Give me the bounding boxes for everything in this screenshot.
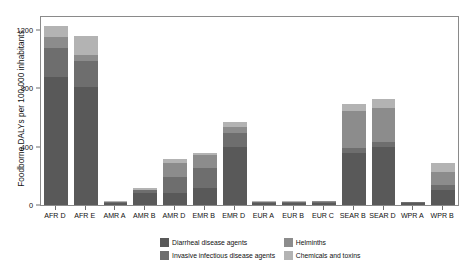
x-tick-mark (383, 206, 384, 210)
x-tick-label: EUR C (312, 212, 334, 220)
x-tick-mark (55, 206, 56, 210)
bar-segment (193, 155, 217, 167)
bar-eur-a[interactable] (252, 201, 276, 205)
x-tick-label: EMR B (193, 212, 215, 220)
bar-amr-b[interactable] (133, 188, 157, 205)
bar-sear-d[interactable] (372, 99, 396, 205)
x-tick-mark (85, 206, 86, 210)
legend-item[interactable]: Invasive infectious disease agents (160, 249, 280, 262)
x-tick-mark (323, 206, 324, 210)
bar-eur-b[interactable] (282, 201, 306, 205)
bar-eur-c[interactable] (312, 201, 336, 205)
bar-emr-d[interactable] (223, 122, 247, 205)
bar-segment (401, 203, 425, 205)
x-tick-label: AMR B (133, 212, 155, 220)
legend-swatch-icon (284, 238, 293, 247)
bars-container (41, 17, 458, 205)
x-tick-label: EUR A (253, 212, 274, 220)
bar-segment (44, 77, 68, 205)
x-tick-mark (353, 206, 354, 210)
legend-swatch-icon (160, 238, 169, 247)
bar-segment (223, 133, 247, 147)
bar-segment (312, 203, 336, 205)
bar-segment (342, 153, 366, 205)
bar-amr-a[interactable] (104, 201, 128, 205)
bar-segment (282, 203, 306, 205)
x-tick-label: WPR B (430, 212, 453, 220)
bar-segment (163, 193, 187, 205)
bar-wpr-a[interactable] (401, 202, 425, 205)
bar-segment (431, 172, 455, 185)
bar-segment (372, 108, 396, 142)
y-tick-label: 800 (21, 84, 33, 93)
bar-segment (193, 168, 217, 188)
x-tick-mark (442, 206, 443, 210)
chart-legend: Diarrheal disease agentsHelminthsInvasiv… (160, 236, 365, 264)
plot-panel (40, 16, 459, 206)
x-tick-label: AMR A (103, 212, 125, 220)
legend-item[interactable]: Helminths (284, 236, 365, 249)
legend-swatch-icon (160, 251, 169, 260)
x-tick-mark (204, 206, 205, 210)
bar-segment (44, 37, 68, 49)
bar-afr-e[interactable] (74, 36, 98, 205)
y-axis-ticks: 04008001200 (0, 0, 40, 190)
bar-sear-b[interactable] (342, 104, 366, 205)
bar-segment (74, 87, 98, 205)
y-tick-label: 1200 (17, 26, 33, 35)
bar-segment (342, 111, 366, 148)
bar-amr-d[interactable] (163, 159, 187, 205)
bar-afr-d[interactable] (44, 26, 68, 205)
x-tick-label: EUR B (282, 212, 304, 220)
legend-label: Diarrheal disease agents (172, 239, 247, 246)
bar-wpr-b[interactable] (431, 163, 455, 205)
x-tick-mark (114, 206, 115, 210)
x-tick-label: SEAR D (369, 212, 395, 220)
y-tick-label: 400 (21, 142, 33, 151)
x-tick-mark (263, 206, 264, 210)
bar-segment (74, 61, 98, 87)
bar-segment (104, 203, 128, 205)
bar-segment (193, 188, 217, 205)
x-tick-mark (412, 206, 413, 210)
chart-figure: Foodborne DALYs per 100,000 inhabitants … (0, 0, 474, 272)
legend-label: Helminths (296, 239, 326, 246)
x-tick-label: WPR A (401, 212, 424, 220)
bar-segment (431, 190, 455, 205)
x-tick-label: EMR D (222, 212, 245, 220)
bar-segment (44, 26, 68, 37)
bar-segment (44, 48, 68, 76)
bar-emr-b[interactable] (193, 153, 217, 205)
x-tick-label: AMR D (163, 212, 186, 220)
x-tick-label: AFR D (44, 212, 65, 220)
bar-segment (74, 36, 98, 55)
bar-segment (163, 163, 187, 177)
x-tick-label: SEAR B (340, 212, 366, 220)
legend-label: Chemicals and toxins (296, 252, 361, 259)
bar-segment (372, 147, 396, 205)
legend-item[interactable]: Diarrheal disease agents (160, 236, 280, 249)
y-tick-label: 0 (29, 201, 33, 210)
bar-segment (133, 193, 157, 205)
bar-segment (431, 163, 455, 172)
x-tick-label: AFR E (74, 212, 95, 220)
x-axis: AFR DAFR EAMR AAMR BAMR DEMR BEMR DEUR A… (40, 206, 459, 228)
legend-item[interactable]: Chemicals and toxins (284, 249, 365, 262)
x-tick-mark (174, 206, 175, 210)
bar-segment (223, 147, 247, 205)
x-tick-mark (293, 206, 294, 210)
bar-segment (163, 177, 187, 194)
bar-segment (372, 99, 396, 108)
legend-swatch-icon (284, 251, 293, 260)
x-tick-mark (144, 206, 145, 210)
x-tick-mark (234, 206, 235, 210)
bar-segment (252, 203, 276, 205)
legend-label: Invasive infectious disease agents (172, 252, 275, 259)
